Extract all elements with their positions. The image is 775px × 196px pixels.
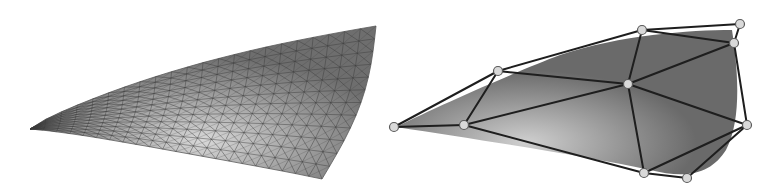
- figure: [0, 0, 775, 196]
- mesh-node: [494, 67, 503, 76]
- mesh-edge: [642, 24, 740, 30]
- mesh-node: [624, 80, 633, 89]
- mesh-node: [736, 20, 745, 29]
- mesh-node: [390, 123, 399, 132]
- mesh-node: [683, 174, 692, 183]
- mesh-node: [640, 169, 649, 178]
- coarse-mesh-panel: [0, 0, 775, 196]
- mesh-node: [743, 121, 752, 130]
- mesh-node: [460, 121, 469, 130]
- mesh-node: [730, 39, 739, 48]
- mesh-node: [638, 26, 647, 35]
